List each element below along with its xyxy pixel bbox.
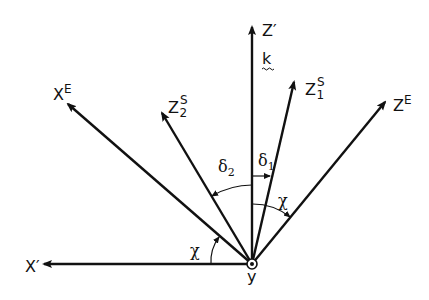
delta2-label: δ2 (218, 157, 235, 179)
z2-S-axis (162, 113, 252, 264)
chi-right-label: χ (278, 191, 288, 210)
x-E-axis (68, 104, 252, 264)
k-wavy-underline (262, 68, 274, 70)
delta2-arc (212, 185, 252, 196)
coordinate-axes-diagram: X′ XE ZS2 Z′ ZS1 ZE k δ2 δ1 χ χ y (0, 0, 429, 300)
z-E-axis (252, 102, 385, 264)
z2-S-label: ZS2 (168, 93, 188, 120)
chi-left-label: χ (190, 241, 200, 260)
k-vector-label: k (262, 49, 272, 68)
z-E-label: ZE (393, 93, 412, 115)
chi-left-arc (211, 237, 219, 264)
delta1-label: δ1 (258, 151, 275, 173)
x-E-label: XE (53, 82, 72, 104)
z-prime-label: Z′ (262, 21, 277, 40)
z1-S-label: ZS1 (305, 75, 325, 102)
x-prime-label: X′ (25, 257, 40, 276)
origin-y-label: y (247, 267, 256, 286)
